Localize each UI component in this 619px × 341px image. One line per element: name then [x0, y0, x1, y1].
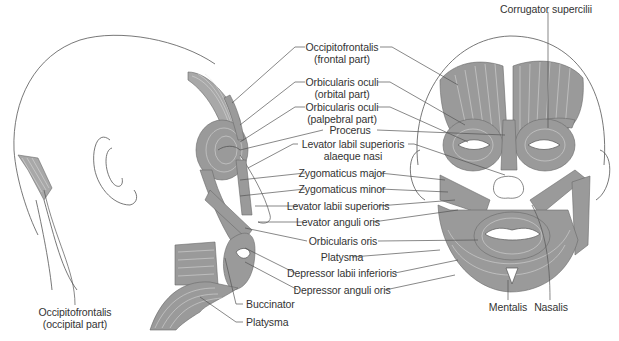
label-line: (frontal part) [306, 53, 379, 65]
label-procerus: Procerus [329, 124, 370, 136]
label-corrugator-supercilii: Corrugator supercilii [500, 3, 592, 15]
lateral-face-view [150, 95, 270, 330]
label-line: Levator anguli oris [296, 216, 380, 228]
label-mentalis: Mentalis [489, 301, 527, 313]
label-platysma-center: Platysma [321, 251, 363, 263]
label-line: Zygomaticus major [299, 167, 386, 179]
label-line: Orbicularis oculi [306, 101, 379, 113]
label-line: (occipital part) [39, 318, 112, 330]
label-zygomaticus-major: Zygomaticus major [299, 167, 386, 179]
label-levator-anguli-oris: Levator anguli oris [296, 216, 380, 228]
label-orbicularis-oculi-palpebral: Orbicularis oculi (palpebral part) [306, 101, 379, 125]
label-zygomaticus-minor: Zygomaticus minor [299, 183, 386, 195]
label-line: Depressor anguli oris [293, 284, 390, 296]
label-line: Orbicularis oculi [306, 76, 379, 88]
label-occipitofrontalis-frontal: Occipitofrontalis (frontal part) [306, 41, 379, 65]
label-line: (orbital part) [306, 88, 379, 100]
label-levator-labii-superioris-alaeque-nasi: Levator labil superioris alaeque nasi [302, 138, 405, 162]
label-orbicularis-oris: Orbicularis oris [309, 235, 377, 247]
label-buccinator: Buccinator [246, 298, 295, 310]
label-occipitofrontalis-occipital: Occipitofrontalis (occipital part) [39, 306, 112, 330]
label-levator-labii-superioris: Levator labii superioris [287, 200, 390, 212]
label-depressor-anguli-oris: Depressor anguli oris [293, 284, 390, 296]
label-line: Levator labii superioris [287, 200, 390, 212]
label-orbicularis-oculi-orbital: Orbicularis oculi (orbital part) [306, 76, 379, 100]
facial-muscles-diagram: Occipitofrontalis (frontal part) Orbicul… [0, 0, 619, 341]
label-line: Occipitofrontalis [39, 306, 112, 318]
label-nasalis: Nasalis [534, 301, 568, 313]
label-line: Platysma [321, 251, 363, 263]
label-line: Orbicularis oris [309, 235, 377, 247]
label-line: Procerus [329, 124, 370, 136]
label-depressor-labii-inferioris: Depressor labii inferioris [287, 267, 397, 279]
label-line: alaeque nasi [302, 150, 405, 162]
label-line: Zygomaticus minor [299, 183, 386, 195]
label-line: Depressor labii inferioris [287, 267, 397, 279]
label-line: Occipitofrontalis [306, 41, 379, 53]
label-platysma-lateral: Platysma [246, 316, 288, 328]
label-line: Levator labil superioris [302, 138, 405, 150]
